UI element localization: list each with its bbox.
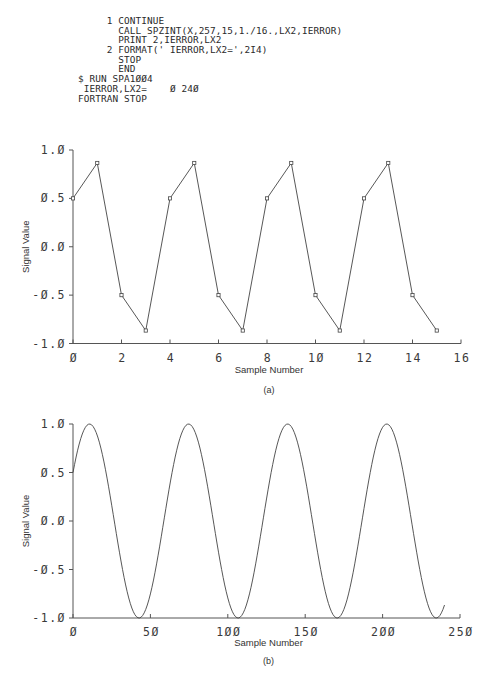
y-tick-label: -1.Ø (32, 611, 66, 625)
x-tick-label: 8 (264, 351, 272, 365)
x-tick-label: Ø (70, 625, 78, 639)
y-tick-label: 1.Ø (41, 417, 66, 431)
x-tick-label: 6 (215, 351, 223, 365)
data-point-marker (387, 161, 390, 164)
y-tick-label: -Ø.5 (32, 563, 66, 577)
data-point-marker (265, 197, 268, 200)
x-tick-label: 12 (357, 351, 374, 365)
data-point-marker (362, 197, 365, 200)
x-tick-label: 1Ø (308, 351, 325, 365)
x-axis-title: Sample Number (235, 364, 304, 375)
data-point-marker (71, 197, 74, 200)
data-point-marker (314, 294, 317, 297)
y-tick-label: Ø.Ø (41, 514, 66, 528)
x-tick-label: 16 (454, 351, 471, 365)
data-point-marker (144, 329, 147, 332)
x-tick-label: 14 (405, 351, 422, 365)
y-tick-label: -1.Ø (32, 337, 66, 351)
data-point-marker (217, 294, 220, 297)
chart-b: 1.ØØ.5Ø.Ø-Ø.5-1.ØØ5Ø1ØØ15Ø2ØØ25ØSignal V… (20, 417, 474, 666)
figure-caption: (a) (264, 385, 275, 395)
x-tick-label: Ø (70, 351, 78, 365)
figure-caption: (b) (263, 656, 274, 666)
x-tick-label: 4 (167, 351, 175, 365)
data-point-marker (168, 197, 171, 200)
x-tick-label: 2ØØ (371, 625, 396, 639)
y-tick-label: Ø.5 (41, 191, 66, 205)
data-point-marker (435, 329, 438, 332)
figure: 1.ØØ.5Ø.Ø-Ø.5-1.ØØ24681Ø121416Signal Val… (0, 0, 494, 683)
x-tick-label: 25Ø (448, 625, 473, 639)
data-point-marker (193, 161, 196, 164)
data-point-marker (96, 161, 99, 164)
y-tick-label: Ø.Ø (41, 240, 66, 254)
y-tick-label: 1.Ø (41, 143, 66, 157)
data-point-marker (241, 329, 244, 332)
data-point-marker (290, 161, 293, 164)
y-axis-title: Signal Value (20, 220, 31, 273)
data-point-marker (120, 294, 123, 297)
y-tick-label: -Ø.5 (32, 288, 66, 302)
y-tick-label: Ø.5 (41, 466, 66, 480)
chart-a: 1.ØØ.5Ø.Ø-Ø.5-1.ØØ24681Ø121416Signal Val… (20, 143, 470, 395)
data-point-marker (411, 294, 414, 297)
y-axis-title: Signal Value (20, 495, 31, 548)
x-tick-label: 2 (118, 351, 126, 365)
x-tick-label: 5Ø (143, 625, 160, 639)
signal-line (73, 163, 437, 331)
data-point-marker (338, 329, 341, 332)
signal-line (73, 424, 445, 618)
x-axis-title: Sample Number (234, 637, 303, 648)
